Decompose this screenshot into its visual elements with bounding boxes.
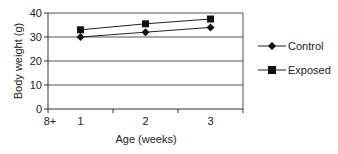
legend: Control Exposed xyxy=(258,38,331,86)
x-tick-labels: 8+123 xyxy=(44,115,214,127)
legend-label: Exposed xyxy=(288,64,331,76)
y-tick-label: 10 xyxy=(30,79,42,91)
diamond-marker xyxy=(207,23,215,31)
x-tick-label: 1 xyxy=(77,115,83,127)
x-tick-label-extra: 8+ xyxy=(44,115,57,127)
y-axis-title: Body weight (g) xyxy=(12,23,24,99)
y-tick-labels: 010203040 xyxy=(30,7,42,115)
square-marker xyxy=(142,20,149,27)
y-tick-label: 0 xyxy=(36,103,42,115)
y-tick-label: 40 xyxy=(30,7,42,19)
legend-item-control: Control xyxy=(258,38,331,54)
diamond-marker xyxy=(77,33,85,41)
legend-item-exposed: Exposed xyxy=(258,62,331,78)
y-tick-label: 20 xyxy=(30,55,42,67)
square-marker xyxy=(77,26,84,33)
y-tick-label: 30 xyxy=(30,31,42,43)
x-tick-label: 3 xyxy=(207,115,213,127)
legend-label: Control xyxy=(288,40,323,52)
square-icon xyxy=(258,64,286,76)
diamond-marker xyxy=(142,28,150,36)
x-axis-title: Age (weeks) xyxy=(115,133,176,145)
x-tick-label: 2 xyxy=(142,115,148,127)
square-marker xyxy=(207,16,214,23)
diamond-icon xyxy=(258,40,286,52)
